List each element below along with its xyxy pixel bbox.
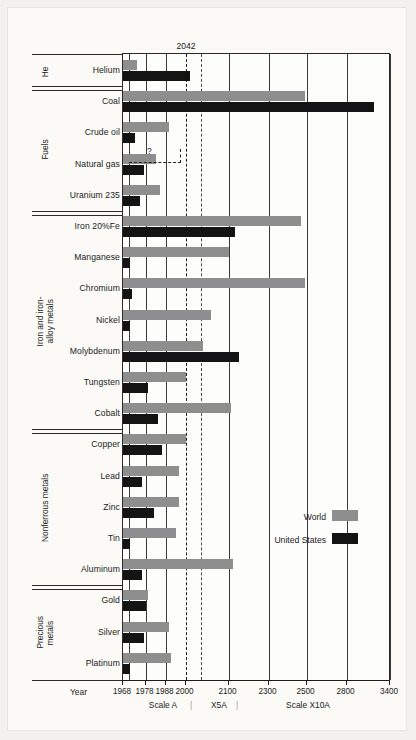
bar-world-helium	[123, 60, 137, 70]
row-label-uranium-235: Uranium 235	[8, 190, 120, 200]
bar-us-silver	[123, 633, 144, 643]
axis-tick-label-2100: 2100	[208, 687, 248, 696]
bar-world-tungsten	[123, 372, 186, 382]
axis-tick-2100	[228, 681, 229, 685]
row-label-gold: Gold	[8, 595, 120, 605]
scale-x5a-caption: X5A	[211, 700, 227, 710]
bar-us-molybdenum	[123, 352, 239, 362]
row-label-iron-20-fe: Iron 20%Fe	[8, 221, 120, 231]
bar-us-coal	[123, 102, 374, 112]
chart-canvas: 2042 ? HeliumCoalCrude oilNa	[8, 8, 406, 730]
figure-card: 2042 ? HeliumCoalCrude oilNa	[8, 8, 406, 730]
bar-world-uranium-235	[123, 185, 160, 195]
row-label-chromium: Chromium	[8, 283, 120, 293]
group-label-fuels: Fuels	[34, 90, 56, 209]
uncertainty-question-mark: ?	[147, 146, 152, 156]
gridline-2100	[229, 54, 230, 680]
row-label-aluminum: Aluminum	[8, 564, 120, 574]
bar-us-zinc	[123, 508, 154, 518]
group-separator-bottom	[32, 680, 122, 681]
bar-us-copper	[123, 445, 162, 455]
group-label-precious-metals: Precious metals	[34, 589, 56, 677]
axis-year-label: Year	[70, 687, 87, 697]
bar-us-gold	[123, 601, 146, 611]
gridline-1968	[129, 54, 130, 680]
row-label-copper: Copper	[8, 439, 120, 449]
group-separator-2a	[32, 429, 122, 430]
plot-area: ?	[122, 53, 390, 681]
axis-tick-label-2300: 2300	[248, 687, 288, 696]
legend-swatch-united-states	[332, 533, 358, 544]
gridline-3400	[390, 54, 391, 680]
bar-world-copper	[123, 434, 186, 444]
gridline-2300	[269, 54, 270, 680]
bar-us-nickel	[123, 321, 130, 331]
axis-tick-2000	[185, 681, 186, 685]
bar-us-tin	[123, 539, 130, 549]
gridline-2000-dashed	[186, 54, 187, 680]
group-label-iron-and-iron-alloy-metals: Iron and iron- alloy metals	[34, 215, 56, 427]
bar-world-nickel	[123, 310, 211, 320]
bar-world-gold	[123, 590, 148, 600]
bar-us-aluminum	[123, 570, 142, 580]
scale-divider-left: |	[190, 700, 192, 710]
bar-us-iron-20-fe	[123, 227, 235, 237]
bar-world-molybdenum	[123, 341, 203, 351]
group-separator-0a	[32, 86, 122, 87]
scale-divider-right: |	[236, 700, 238, 710]
legend-label-world: World	[270, 512, 326, 522]
axis-tick-2500	[306, 681, 307, 685]
row-label-crude-oil: Crude oil	[8, 127, 120, 137]
bar-world-chromium	[123, 278, 305, 288]
bar-us-tungsten	[123, 383, 148, 393]
gridline-2042-dashed	[201, 54, 202, 680]
axis-tick-1978	[145, 681, 146, 685]
row-label-helium: Helium	[8, 65, 120, 75]
bar-world-manganese	[123, 247, 229, 257]
legend-swatch-world	[332, 510, 358, 521]
bar-us-cobalt	[123, 414, 158, 424]
figure-page: 2042 ? HeliumCoalCrude oilNa	[0, 0, 416, 740]
row-label-molybdenum: Molybdenum	[8, 346, 120, 356]
bar-us-helium	[123, 71, 190, 81]
group-label-he: He	[34, 59, 56, 84]
bar-world-aluminum	[123, 559, 233, 569]
legend-label-united-states: United States	[236, 535, 326, 545]
axis-tick-3400	[389, 681, 390, 685]
axis-tick-label-2000: 2000	[165, 687, 205, 696]
bar-us-uranium-235	[123, 196, 140, 206]
row-label-natural-gas: Natural gas	[8, 159, 120, 169]
bar-world-lead	[123, 466, 179, 476]
axis-tick-2800	[346, 681, 347, 685]
annotation-2042: 2042	[176, 41, 195, 51]
row-label-tin: Tin	[8, 533, 120, 543]
axis-tick-label-2800: 2800	[326, 687, 366, 696]
axis-tick-2300	[268, 681, 269, 685]
gridline-2500	[307, 54, 308, 680]
row-label-zinc: Zinc	[8, 502, 120, 512]
axis-tick-label-3400: 3400	[369, 687, 409, 696]
axis-tick-label-2500: 2500	[286, 687, 326, 696]
bar-world-cobalt	[123, 403, 231, 413]
row-label-coal: Coal	[8, 96, 120, 106]
bar-world-zinc	[123, 497, 179, 507]
gridline-1988	[166, 54, 167, 680]
bar-us-manganese	[123, 258, 130, 268]
bar-us-chromium	[123, 289, 132, 299]
bar-world-silver	[123, 622, 169, 632]
row-label-tungsten: Tungsten	[8, 377, 120, 387]
group-separator-top	[32, 54, 122, 55]
bar-world-platinum	[123, 653, 171, 663]
row-label-manganese: Manganese	[8, 252, 120, 262]
scale-x10a-caption: Scale X10A	[286, 700, 330, 710]
bar-world-tin	[123, 528, 176, 538]
gridline-2800	[347, 54, 348, 680]
bar-us-crude-oil	[123, 133, 135, 143]
group-separator-1a	[32, 211, 122, 212]
group-separator-3a	[32, 585, 122, 586]
crude-oil-uncertainty-box	[129, 149, 181, 163]
group-label-nonferrous-metals: Nonferrous metals	[34, 433, 56, 583]
row-label-platinum: Platinum	[8, 658, 120, 668]
bar-us-natural-gas	[123, 165, 144, 175]
bar-us-lead	[123, 477, 142, 487]
